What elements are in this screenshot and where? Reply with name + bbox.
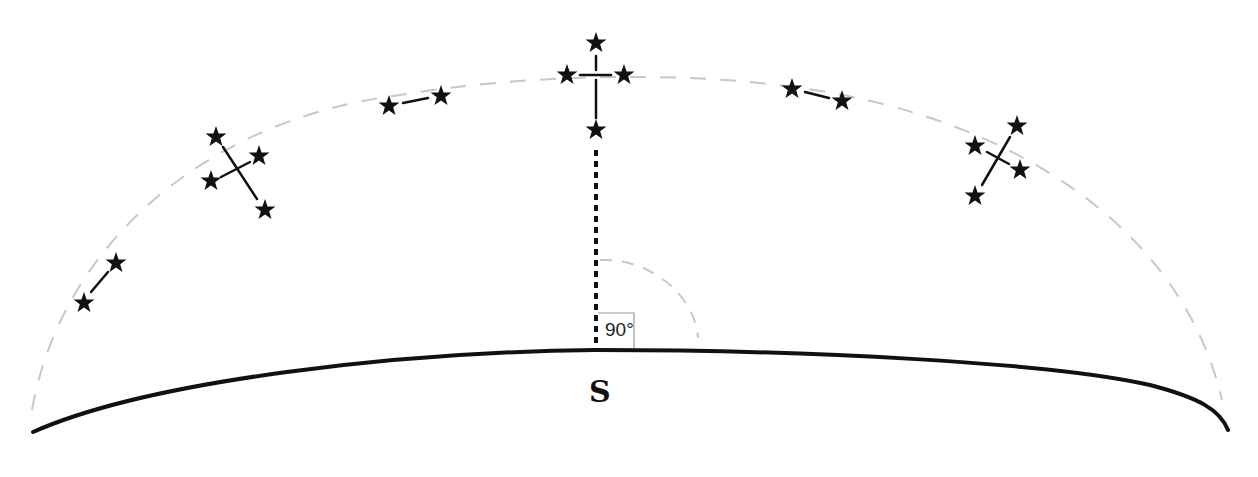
star-icon	[74, 292, 95, 312]
star-icon	[782, 78, 803, 98]
star-icon	[832, 90, 853, 110]
star-icon	[255, 199, 276, 219]
star-icon	[431, 85, 452, 105]
constellation-left	[201, 126, 276, 219]
star-icon	[106, 252, 127, 272]
southern-cross-diagram: 90° S	[0, 0, 1258, 477]
constellation-lines	[91, 56, 1010, 292]
star-icon	[1007, 115, 1028, 135]
celestial-path-arc	[32, 77, 1222, 410]
star-icon	[586, 32, 607, 52]
star-icon	[965, 185, 986, 205]
star-icon	[1010, 159, 1031, 179]
star-icon	[614, 64, 635, 84]
angle-label: 90°	[605, 319, 634, 340]
star-icon	[206, 126, 227, 146]
star-icon	[249, 145, 270, 165]
star-icon	[586, 119, 607, 139]
star-icon	[557, 64, 578, 84]
star-icon	[379, 95, 400, 115]
south-label: S	[589, 374, 611, 409]
star-icon	[201, 170, 222, 190]
horizon-line	[33, 350, 1228, 432]
